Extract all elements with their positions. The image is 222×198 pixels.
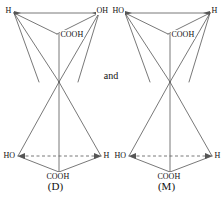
upper-left-to-center xyxy=(125,13,170,82)
structure-d-caption: (D) xyxy=(0,180,111,192)
structure-d-drawing xyxy=(0,0,111,198)
atom-label-upper-right: OH xyxy=(96,6,109,15)
structure-m-caption: (M) xyxy=(111,180,222,192)
structure-m: HO H COOH HO H COOH (M) xyxy=(111,0,222,198)
atom-label-lower-right: H xyxy=(103,151,110,160)
atom-label-upper-apex: COOH xyxy=(60,30,84,39)
atom-label-upper-left: HO xyxy=(112,6,125,15)
atom-label-upper-left: H xyxy=(5,6,12,15)
structure-d: H OH COOH HO H COOH (D) xyxy=(0,0,111,198)
structure-m-drawing xyxy=(111,0,222,198)
atom-label-lower-right: H xyxy=(214,151,221,160)
atom-label-lower-left: HO xyxy=(114,151,127,160)
upper-right-stub xyxy=(189,13,210,82)
conjunction-and: and xyxy=(95,70,127,81)
lower-center-to-right xyxy=(59,82,101,156)
lower-center-to-right xyxy=(170,82,212,156)
atom-label-lower-left: HO xyxy=(3,151,16,160)
lower-center-to-left xyxy=(18,82,59,156)
lower-center-to-left xyxy=(129,82,170,156)
atom-label-upper-right: H xyxy=(211,6,218,15)
upper-left-to-center xyxy=(14,13,59,82)
atom-label-upper-apex: COOH xyxy=(171,30,195,39)
figure-canvas: H OH COOH HO H COOH (D) xyxy=(0,0,222,198)
